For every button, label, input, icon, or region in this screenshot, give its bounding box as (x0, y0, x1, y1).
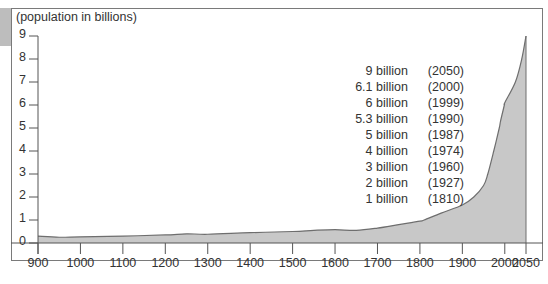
milestone-year: (2000) (408, 79, 464, 95)
milestone-value: 4 billion (304, 143, 408, 159)
milestone-row: 6.1 billion(2000) (304, 79, 464, 95)
x-tick-label: 1800 (406, 256, 434, 270)
milestone-row: 1 billion(1810) (304, 191, 464, 207)
y-tick-label: 4 (6, 142, 26, 156)
y-tick-label: 2 (6, 188, 26, 202)
x-tick-label: 900 (28, 256, 49, 270)
milestone-value: 9 billion (304, 63, 408, 79)
milestone-row: 5.3 billion(1990) (304, 111, 464, 127)
milestone-value: 2 billion (304, 175, 408, 191)
x-tick-label: 1700 (364, 256, 392, 270)
milestone-year: (1927) (408, 175, 464, 191)
y-tick-label: 7 (6, 73, 26, 87)
y-tick-label: 9 (6, 27, 26, 41)
milestone-year: (1987) (408, 127, 464, 143)
milestone-value: 5.3 billion (304, 111, 408, 127)
x-tick-label: 1400 (236, 256, 264, 270)
x-tick-label: 1000 (67, 256, 95, 270)
population-milestones-legend: 9 billion(2050)6.1 billion(2000)6 billio… (304, 63, 464, 207)
milestone-row: 4 billion(1974) (304, 143, 464, 159)
milestone-year: (1974) (408, 143, 464, 159)
y-axis-title: (population in billions) (16, 10, 137, 24)
x-tick-label: 1500 (279, 256, 307, 270)
milestone-value: 1 billion (304, 191, 408, 207)
x-tick-label: 1900 (448, 256, 476, 270)
x-tick-label: 1600 (321, 256, 349, 270)
milestone-year: (1960) (408, 159, 464, 175)
milestone-year: (2050) (408, 63, 464, 79)
milestone-row: 2 billion(1927) (304, 175, 464, 191)
milestone-row: 5 billion(1987) (304, 127, 464, 143)
milestone-row: 6 billion(1999) (304, 95, 464, 111)
x-tick-label: 1100 (109, 256, 136, 270)
milestone-row: 9 billion(2050) (304, 63, 464, 79)
y-tick-label: 6 (6, 96, 26, 110)
x-tick-label: 2050 (512, 256, 540, 270)
milestone-value: 5 billion (304, 127, 408, 143)
milestone-row: 3 billion(1960) (304, 159, 464, 175)
milestone-year: (1990) (408, 111, 464, 127)
milestone-year: (1810) (408, 191, 464, 207)
y-tick-label: 8 (6, 50, 26, 64)
y-tick-label: 3 (6, 165, 26, 179)
milestone-year: (1999) (408, 95, 464, 111)
y-tick-label: 1 (6, 211, 26, 225)
milestone-value: 6.1 billion (304, 79, 408, 95)
population-area-chart (0, 0, 548, 284)
milestone-value: 6 billion (304, 95, 408, 111)
milestone-value: 3 billion (304, 159, 408, 175)
y-tick-label: 0 (6, 234, 26, 248)
y-tick-label: 5 (6, 119, 26, 133)
x-tick-label: 1200 (151, 256, 179, 270)
x-tick-label: 1300 (194, 256, 222, 270)
